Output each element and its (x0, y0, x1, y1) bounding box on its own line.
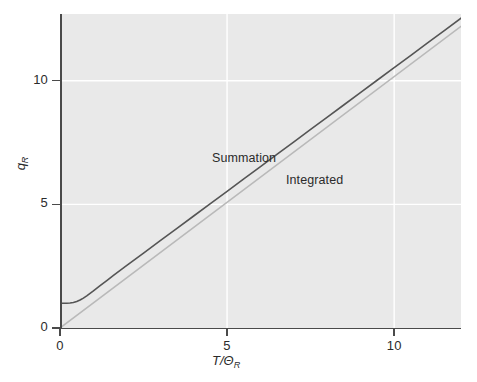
series-layer (60, 18, 461, 328)
y-tick-mark (52, 204, 60, 205)
x-tick-label: 0 (47, 338, 73, 353)
x-axis-line (60, 328, 461, 329)
plot-svg (60, 14, 461, 328)
figure-canvas: 05100510 qR T/ΘR Summation Integrated (0, 0, 477, 382)
y-axis-title-sub: R (20, 157, 30, 164)
series-label-summation: Summation (212, 151, 276, 165)
y-tick-label: 0 (22, 319, 48, 334)
y-axis-title: qR (13, 157, 28, 171)
x-tick-label: 5 (214, 338, 240, 353)
gridlines (60, 14, 461, 328)
x-tick-label: 10 (381, 338, 407, 353)
series-label-integrated: Integrated (286, 173, 343, 187)
y-axis-title-main: q (13, 163, 28, 170)
x-tick-mark (393, 328, 394, 336)
y-tick-label: 5 (22, 195, 48, 210)
y-axis-line (60, 14, 62, 329)
plot-panel (60, 14, 461, 328)
x-tick-mark (226, 328, 227, 336)
series-line-integrated (60, 26, 461, 328)
x-axis-title-main: T/Θ (212, 353, 234, 368)
x-axis-title-sub: R (234, 360, 241, 370)
x-tick-mark (59, 328, 60, 336)
y-tick-mark (52, 80, 60, 81)
x-axis-title: T/ΘR (212, 353, 240, 368)
y-tick-label: 10 (22, 72, 48, 87)
